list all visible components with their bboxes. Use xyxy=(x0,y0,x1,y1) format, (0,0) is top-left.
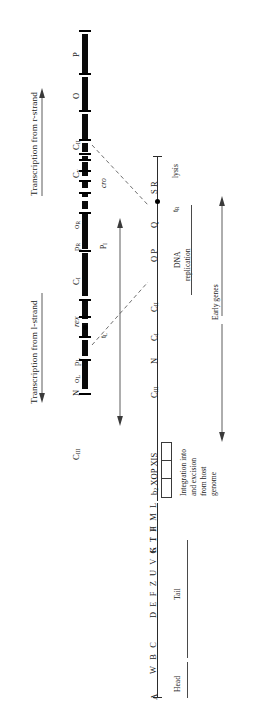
lysis-label: lysis xyxy=(172,164,180,178)
chromosome-tick xyxy=(79,30,91,32)
lower-gene-label-b2-xop-xis: b2 XOP XIS xyxy=(150,453,160,495)
head-genes-group-1: A xyxy=(150,694,159,700)
gene-label-tL: tL xyxy=(100,333,108,338)
chromosome-tick xyxy=(79,180,91,182)
gene-label-cIII: CIII xyxy=(72,448,82,460)
lower-map-line xyxy=(157,156,158,501)
transcription-l-strand-label: Transcription from l-strand xyxy=(30,300,39,404)
gene-label-pL: pL xyxy=(72,358,82,366)
chromosome-segment xyxy=(82,143,88,152)
dna-replication-label-line1: DNA xyxy=(174,252,182,268)
tL-terminator-dot xyxy=(83,325,88,330)
gene-label-P: P xyxy=(72,52,81,57)
chromosome-tick xyxy=(79,212,91,214)
lower-gene-label-OP: O P xyxy=(150,249,159,262)
chromosome-segment xyxy=(82,114,88,139)
lower-gene-label-cIII: CIII xyxy=(150,386,160,398)
gene-label-pR: pR xyxy=(72,243,82,251)
integration-caption-line1: Integration into xyxy=(180,449,188,496)
gene-label-pI: PI xyxy=(100,243,108,249)
tR-terminator-dot xyxy=(155,199,160,204)
lower-gene-label-N: N xyxy=(150,358,159,364)
integration-box-divider xyxy=(162,460,171,461)
chromosome-tick xyxy=(79,110,91,112)
lower-gene-label-tR: tR xyxy=(172,206,180,212)
lower-map-endcap xyxy=(153,156,162,157)
tail-region-label: Tail xyxy=(174,588,182,600)
gene-label-O: O xyxy=(72,93,81,99)
dna-replication-bracket xyxy=(191,205,192,295)
chromosome-tick xyxy=(79,153,91,155)
integration-box-divider xyxy=(162,478,171,479)
chromosome-tick xyxy=(79,336,91,338)
integration-caption-line3: from host xyxy=(200,467,208,496)
lower-gene-label-cI: CI xyxy=(150,333,160,341)
head-region-label: Head xyxy=(174,676,182,692)
gene-label-cy: Cy xyxy=(72,169,82,178)
chromosome-segment xyxy=(82,162,88,176)
integration-caption-line4: genome xyxy=(210,472,218,496)
gene-label-oL: oL xyxy=(72,375,82,383)
gene-label-rex: rex xyxy=(72,316,81,327)
lower-gene-label-cII: CII xyxy=(150,302,160,312)
integration-caption-line2: and excision xyxy=(190,458,198,496)
tail-region-bracket xyxy=(187,540,188,658)
chromosome-tick xyxy=(79,299,91,301)
gene-label-cro: cro xyxy=(100,178,108,188)
chromosome-tick xyxy=(79,73,91,75)
chromosome-segment xyxy=(82,201,88,209)
chromosome-segment xyxy=(82,340,88,356)
lower-gene-label-Q: Q xyxy=(150,222,159,228)
gene-label-cII: CII xyxy=(72,140,82,150)
gene-label-oR: oR xyxy=(72,221,82,229)
transcription-r-strand-label: Transcription from r-strand xyxy=(30,92,39,196)
integration-box xyxy=(161,442,172,498)
gene-label-cI: CI xyxy=(72,277,82,285)
head-region-bracket xyxy=(187,662,188,698)
figure-canvas: Transcription from r-strand Transcriptio… xyxy=(0,0,259,725)
lower-gene-label-SR: S R xyxy=(150,181,159,194)
chromosome-segment xyxy=(82,213,88,249)
chromosome-tick xyxy=(79,192,91,194)
chromosome-segment xyxy=(82,253,88,296)
gene-label-N: N xyxy=(72,390,81,396)
head-genes-group-2: W B C xyxy=(150,640,158,674)
chromosome-segment xyxy=(82,77,88,110)
tail-genes-group-1: D E F Z U V G T H M L xyxy=(150,501,158,618)
chromosome-segment xyxy=(82,360,88,389)
early-genes-label: Early genes xyxy=(212,284,220,320)
chromosome-tick xyxy=(79,159,91,161)
chromosome-segment xyxy=(82,34,88,73)
